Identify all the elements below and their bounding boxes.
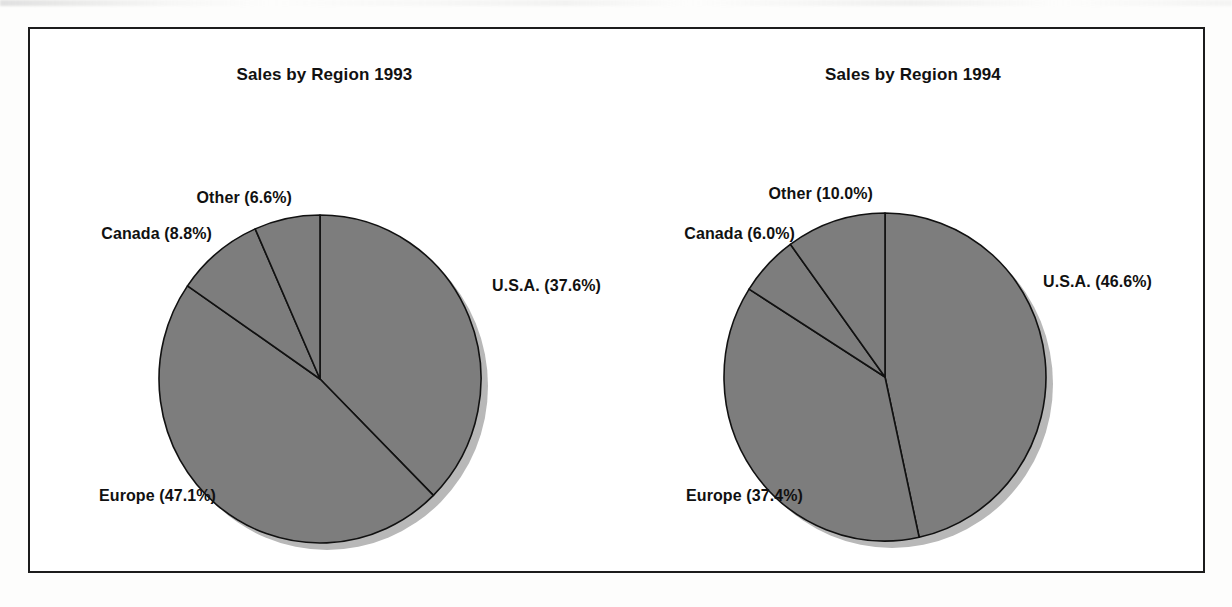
pie-label-canada-1994: Canada (6.0%)	[619, 225, 795, 243]
pie-label-europe-1993: Europe (47.1%)	[30, 487, 216, 505]
chart-panel-1994: Sales by Region 1994 Other (10.0%) Canad…	[619, 29, 1207, 571]
figure-frame: Sales by Region 1993 Other (6.6%) Canada…	[28, 27, 1205, 573]
pie-label-europe-1994: Europe (37.4%)	[619, 487, 803, 505]
scan-artifact	[0, 0, 1232, 6]
pie-label-other-1994: Other (10.0%)	[619, 185, 873, 203]
pie-label-usa-1994: U.S.A. (46.6%)	[1043, 273, 1152, 291]
figure-page: Sales by Region 1993 Other (6.6%) Canada…	[0, 0, 1232, 607]
pie-label-canada-1993: Canada (8.8%)	[30, 225, 212, 243]
pie-label-usa-1993: U.S.A. (37.6%)	[492, 277, 601, 295]
pie-label-other-1993: Other (6.6%)	[30, 189, 292, 207]
chart-panel-1993: Sales by Region 1993 Other (6.6%) Canada…	[30, 29, 619, 571]
